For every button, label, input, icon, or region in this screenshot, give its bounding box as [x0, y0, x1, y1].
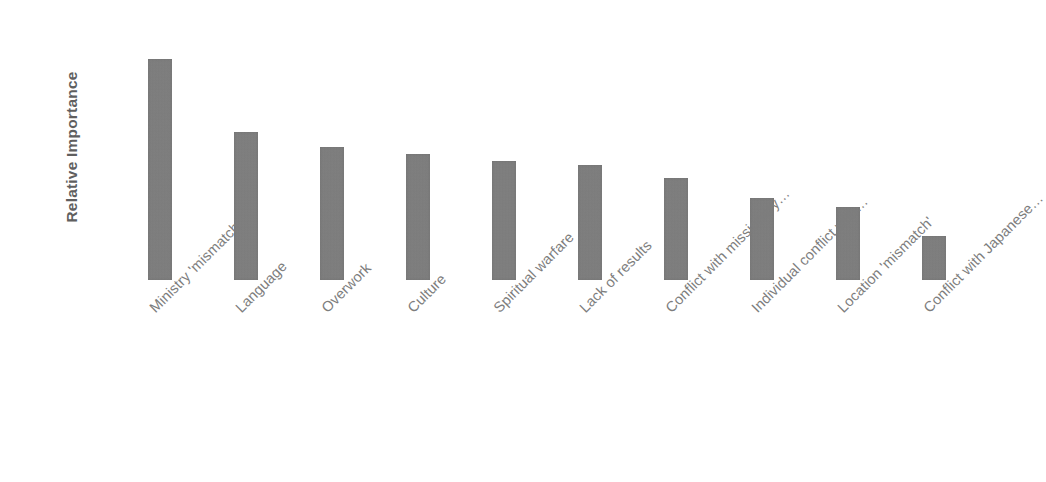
- bar[interactable]: [578, 165, 602, 280]
- bar[interactable]: [492, 161, 516, 280]
- bar[interactable]: [664, 178, 688, 280]
- bar[interactable]: [234, 132, 258, 280]
- bar[interactable]: [406, 154, 430, 280]
- bar[interactable]: [922, 236, 946, 280]
- y-axis-title: Relative Importance: [63, 17, 81, 277]
- bar[interactable]: [320, 147, 344, 280]
- bar[interactable]: [148, 59, 172, 280]
